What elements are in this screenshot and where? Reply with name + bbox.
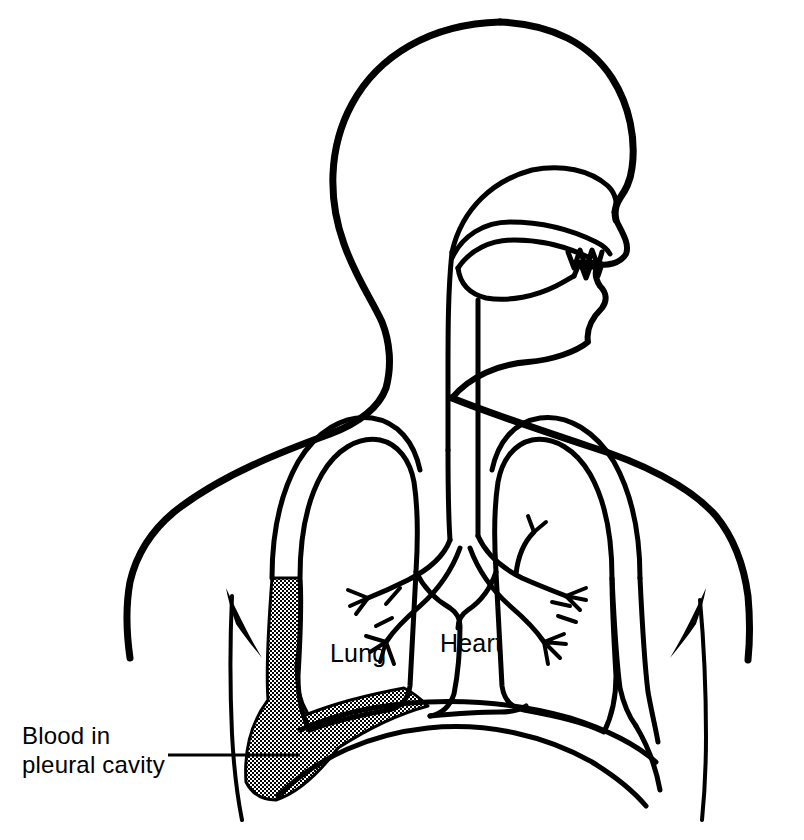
anatomy-diagram: Lung Heart Blood in pleural cavity bbox=[0, 0, 804, 840]
heart-label: Heart bbox=[440, 629, 502, 657]
blood-label-line1: Blood in bbox=[22, 722, 110, 749]
lung-label: Lung bbox=[330, 639, 386, 667]
trachea-left-wall bbox=[448, 450, 450, 540]
blood-label-line2: pleural cavity bbox=[22, 751, 165, 778]
anatomy-illustration: Lung Heart Blood in pleural cavity bbox=[0, 0, 804, 840]
